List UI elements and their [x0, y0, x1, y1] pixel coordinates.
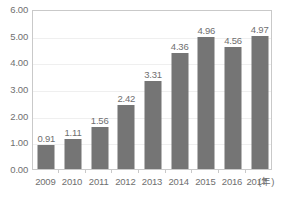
y-axis-tick-label: 6.00 [0, 5, 28, 15]
bar[interactable] [198, 37, 215, 169]
x-axis-ticks [32, 170, 272, 174]
y-axis-tick-label: 5.00 [0, 32, 28, 42]
bar-group: 4.96 [193, 11, 220, 169]
y-axis-tick-label: 1.00 [0, 138, 28, 148]
x-axis-tick-label: 2014 [169, 176, 189, 188]
bar-value-label: 3.31 [144, 70, 162, 80]
bars-layer: 0.91 1.11 1.56 2.42 3.31 4.36 [33, 11, 271, 169]
x-axis-tick-label: 2010 [62, 176, 82, 188]
x-axis-tick-mark [58, 170, 59, 173]
y-axis-tick-label: 0.00 [0, 165, 28, 175]
y-axis: 6.00 5.00 4.00 3.00 2.00 1.00 0.00 [0, 0, 31, 197]
bar-group: 0.91 [33, 11, 60, 169]
plot-area: 0.91 1.11 1.56 2.42 3.31 4.36 [32, 10, 272, 170]
bar-value-label: 4.56 [224, 36, 242, 46]
bar-value-label: 2.42 [117, 94, 135, 104]
x-axis-unit-label: (年) [258, 176, 274, 188]
bar[interactable] [251, 36, 268, 169]
x-axis-tick-mark [111, 170, 112, 173]
bar-group: 4.36 [166, 11, 193, 169]
bar-value-label: 4.36 [171, 42, 189, 52]
y-axis-tick-label: 4.00 [0, 58, 28, 68]
bar[interactable] [118, 105, 135, 170]
y-axis-tick-label: 2.00 [0, 112, 28, 122]
bar[interactable] [38, 145, 55, 169]
bar-value-label: 1.56 [91, 116, 109, 126]
x-axis-tick-mark [138, 170, 139, 173]
x-axis-tick-label: 2015 [195, 176, 215, 188]
y-axis-tick-label: 3.00 [0, 85, 28, 95]
bar-value-label: 0.91 [37, 134, 55, 144]
x-axis-tick-label: 2016 [222, 176, 242, 188]
bar[interactable] [144, 81, 161, 169]
bar-group: 1.56 [86, 11, 113, 169]
bar-group: 4.97 [246, 11, 273, 169]
x-axis-tick-mark [165, 170, 166, 173]
x-axis-tick-label: 2012 [115, 176, 135, 188]
x-axis-tick-mark [218, 170, 219, 173]
bar-group: 2.42 [113, 11, 140, 169]
x-axis-tick-mark [85, 170, 86, 173]
x-axis-tick-mark [245, 170, 246, 173]
bar-group: 1.11 [60, 11, 87, 169]
bar-value-label: 1.11 [64, 128, 81, 138]
bar[interactable] [91, 127, 108, 169]
x-axis-tick-label: 2009 [35, 176, 55, 188]
x-axis: 2009 2010 2011 2012 2013 2014 2015 2016 … [32, 176, 285, 190]
x-axis-tick-label: 2013 [142, 176, 162, 188]
bar-value-label: 4.97 [251, 25, 269, 35]
bar[interactable] [224, 47, 241, 169]
x-axis-tick-mark [191, 170, 192, 173]
bar[interactable] [171, 53, 188, 169]
bar-group: 4.56 [220, 11, 247, 169]
bar-value-label: 4.96 [197, 26, 215, 36]
bar-group: 3.31 [140, 11, 167, 169]
x-axis-tick-label: 2011 [89, 176, 109, 188]
bar[interactable] [64, 139, 81, 169]
bar-chart: 6.00 5.00 4.00 3.00 2.00 1.00 0.00 0.91 … [0, 0, 285, 197]
